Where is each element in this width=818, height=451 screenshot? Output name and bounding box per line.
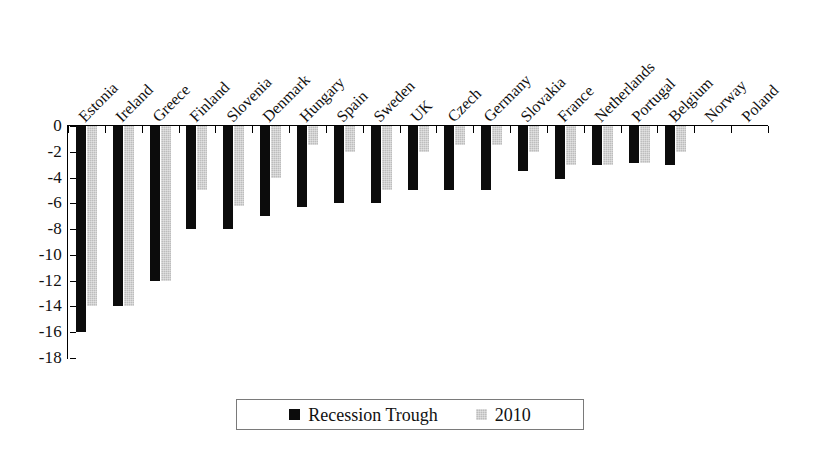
bar-slovakia-recession-trough [518,126,528,171]
category-label-greece: Greece [150,82,193,125]
bar-group [665,126,686,358]
legend-item-y2010[interactable]: 2010 [476,406,531,424]
bar-estonia-recession-trough [76,126,86,332]
bar-group [334,126,355,358]
bar-group [739,126,760,358]
bar-spain-y2010 [345,126,355,152]
bar-germany-recession-trough [481,126,491,190]
bar-group [629,126,650,358]
bar-group [260,126,281,358]
bar-group [371,126,392,358]
bar-denmark-recession-trough [260,126,270,216]
category-label-czech: Czech [444,85,484,125]
bar-netherlands-y2010 [603,126,613,165]
y-axis-tick-label: -18 [16,349,62,366]
bar-group [113,126,134,358]
bar-netherlands-recession-trough [592,126,602,165]
y-axis-tick-labels: 0-2-4-6-8-10-12-14-16-18 [8,0,62,451]
bar-czech-recession-trough [444,126,454,190]
bar-hungary-y2010 [308,126,318,145]
x-axis-tick-mark [768,126,769,133]
bar-finland-recession-trough [186,126,196,229]
bar-group [150,126,171,358]
bar-group [444,126,465,358]
bar-belgium-y2010 [676,126,686,152]
bar-finland-y2010 [197,126,207,190]
y-axis-tick-label: -2 [16,143,62,160]
bar-group [592,126,613,358]
bar-uk-y2010 [419,126,429,152]
y-axis-tick-label: -4 [16,169,62,186]
black-square-icon [289,409,300,420]
bar-france-recession-trough [555,126,565,179]
chart-legend: Recession Trough2010 [236,399,584,430]
bar-ireland-y2010 [124,126,134,306]
bar-group [702,126,723,358]
y-axis-tick-mark [70,358,76,359]
legend-label: 2010 [495,406,531,424]
bar-portugal-y2010 [640,126,650,163]
bar-ireland-recession-trough [113,126,123,306]
bar-group [76,126,97,358]
bar-france-y2010 [566,126,576,165]
y-axis-tick-label: 0 [16,117,62,134]
bar-sweden-y2010 [382,126,392,190]
bar-group [408,126,429,358]
category-label-uk: UK [407,97,435,125]
bar-uk-recession-trough [408,126,418,190]
y-axis-tick-label: -16 [16,323,62,340]
plot-area [68,126,768,358]
bar-denmark-y2010 [271,126,281,178]
legend-item-recession-trough[interactable]: Recession Trough [289,406,438,424]
y-axis-tick-label: -10 [16,246,62,263]
bar-hungary-recession-trough [297,126,307,207]
gray-square-icon [476,409,487,420]
category-label-estonia: Estonia [76,80,121,125]
bar-group [186,126,207,358]
bar-belgium-recession-trough [665,126,675,165]
bar-slovenia-y2010 [234,126,244,206]
category-label-ireland: Ireland [113,82,156,125]
bar-czech-y2010 [455,126,465,145]
y-axis-tick-label: -6 [16,194,62,211]
bar-portugal-recession-trough [629,126,639,163]
legend-label: Recession Trough [308,406,438,424]
y-axis-tick-label: -8 [16,220,62,237]
category-label-finland: Finland [186,79,232,125]
bar-estonia-y2010 [87,126,97,306]
bar-group [223,126,244,358]
bar-slovenia-recession-trough [223,126,233,229]
bar-group [555,126,576,358]
bar-slovakia-y2010 [529,126,539,152]
category-label-sweden: Sweden [371,78,418,125]
y-axis-tick-label: -14 [16,297,62,314]
bar-greece-recession-trough [150,126,160,281]
y-axis-tick-label: -12 [16,272,62,289]
bar-sweden-recession-trough [371,126,381,203]
bar-group [481,126,502,358]
bar-greece-y2010 [161,126,171,281]
bar-spain-recession-trough [334,126,344,203]
chart-container: 0-2-4-6-8-10-12-14-16-18 EstoniaIrelandG… [0,0,818,451]
bar-group [297,126,318,358]
bar-group [518,126,539,358]
bar-germany-y2010 [492,126,502,145]
